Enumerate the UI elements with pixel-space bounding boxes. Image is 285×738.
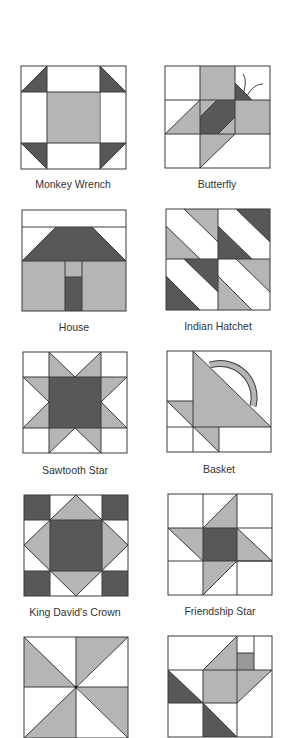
block-label: King David's Crown: [10, 606, 140, 618]
block-label: Sawtooth Star: [10, 464, 140, 476]
block-label: Basket: [154, 463, 284, 475]
butterfly-block: [165, 66, 270, 168]
block-label: Butterfly: [152, 178, 282, 190]
block-label: House: [9, 321, 139, 333]
block-label: Indian Hatchet: [153, 320, 283, 332]
sawtooth-star-block: [23, 352, 127, 453]
friendship-star-block: [168, 494, 272, 595]
block-label: Friendship Star: [155, 605, 285, 617]
monkey-wrench-block: [21, 66, 126, 169]
indian-hatchet-block: [166, 209, 270, 310]
basket-block: [167, 351, 271, 452]
pinwheel-block: [24, 637, 128, 738]
flying-bird-block: [168, 636, 272, 737]
block-label: Monkey Wrench: [8, 178, 138, 190]
king-davids-crown-block: [24, 495, 128, 596]
house-block: [22, 210, 126, 311]
